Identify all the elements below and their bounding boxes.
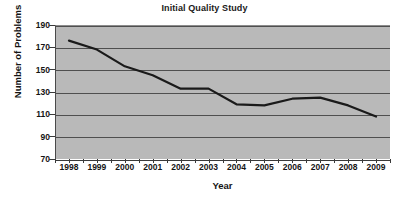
x-axis-title: Year <box>55 180 390 191</box>
x-tick-label: 2000 <box>115 162 134 172</box>
x-tick-mark <box>125 159 126 163</box>
x-tick-mark <box>55 159 56 163</box>
x-tick-label: 2008 <box>339 162 358 172</box>
x-tick-label: 2009 <box>367 162 386 172</box>
x-tick-label: 2003 <box>199 162 218 172</box>
x-tick-mark <box>376 159 377 163</box>
x-tick-mark <box>223 159 224 163</box>
x-tick-label: 2004 <box>227 162 246 172</box>
y-tick-mark <box>49 25 55 26</box>
x-tick-mark <box>320 159 321 163</box>
chart-title: Initial Quality Study <box>0 3 409 13</box>
x-tick-label: 1998 <box>59 162 78 172</box>
y-tick-mark <box>49 136 55 137</box>
x-tick-mark <box>139 159 140 163</box>
x-tick-mark <box>292 159 293 163</box>
y-tick-label: 170 <box>36 42 50 52</box>
x-tick-mark <box>97 159 98 163</box>
x-tick-mark <box>209 159 210 163</box>
y-tick-label: 110 <box>36 109 50 119</box>
x-tick-mark <box>390 159 391 163</box>
x-tick-label: 2005 <box>255 162 274 172</box>
x-tick-label: 2002 <box>171 162 190 172</box>
x-tick-mark <box>250 159 251 163</box>
x-tick-label: 2007 <box>311 162 330 172</box>
x-axis-tick-labels: 1998199920002001200220032004200520062007… <box>55 162 390 176</box>
x-tick-mark <box>362 159 363 163</box>
y-tick-label: 190 <box>36 20 50 30</box>
x-tick-mark <box>306 159 307 163</box>
line-series <box>55 25 390 159</box>
y-tick-mark <box>49 114 55 115</box>
x-tick-mark <box>69 159 70 163</box>
x-tick-mark <box>153 159 154 163</box>
x-tick-mark <box>348 159 349 163</box>
y-tick-mark <box>49 92 55 93</box>
x-tick-mark <box>181 159 182 163</box>
x-tick-label: 1999 <box>87 162 106 172</box>
y-tick-label: 130 <box>36 87 50 97</box>
x-tick-label: 2001 <box>143 162 162 172</box>
x-tick-mark <box>83 159 84 163</box>
x-tick-mark <box>334 159 335 163</box>
y-tick-label: 150 <box>36 65 50 75</box>
series-polyline <box>69 41 376 117</box>
x-tick-mark <box>264 159 265 163</box>
y-axis-title: Number of Problems <box>12 0 23 107</box>
x-tick-mark <box>167 159 168 163</box>
x-tick-mark <box>236 159 237 163</box>
y-tick-mark <box>49 69 55 70</box>
x-tick-mark <box>278 159 279 163</box>
y-tick-mark <box>49 47 55 48</box>
x-tick-mark <box>195 159 196 163</box>
x-tick-mark <box>111 159 112 163</box>
x-tick-label: 2006 <box>283 162 302 172</box>
chart-container: Initial Quality Study Number of Problems… <box>0 0 409 201</box>
